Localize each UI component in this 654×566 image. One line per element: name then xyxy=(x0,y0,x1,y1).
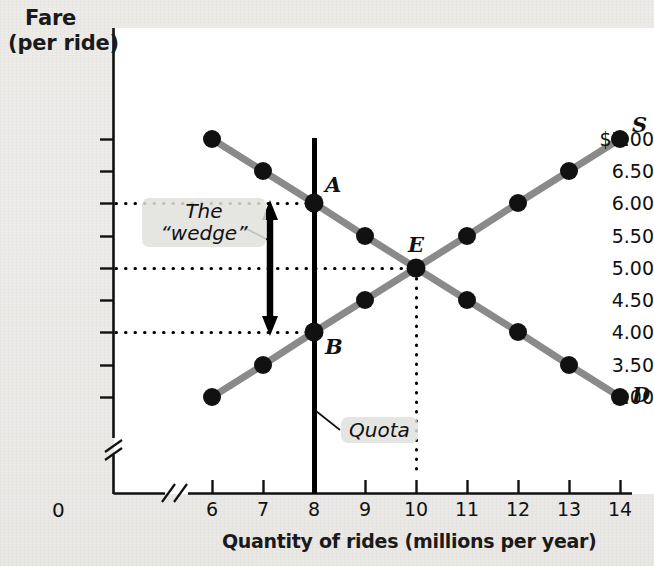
y-tick-label-5-50: 5.50 xyxy=(558,225,654,247)
point-label-e: E xyxy=(408,232,424,257)
y-axis-ticks xyxy=(100,140,113,398)
wedge-callout: The “wedge” xyxy=(142,198,266,247)
point-label-a: A xyxy=(325,172,341,197)
quota-callout: Quota xyxy=(341,417,418,443)
x-axis-ticks xyxy=(213,480,621,493)
wedge-callout-line1: The xyxy=(150,200,258,222)
y-tick-label-3-50: 3.50 xyxy=(558,354,654,376)
chart-svg xyxy=(0,0,654,566)
y-tick-label-4-00: 4.00 xyxy=(558,321,654,343)
x-tick-label-12: 12 xyxy=(498,498,538,520)
x-tick-label-8: 8 xyxy=(294,498,334,520)
y-axis xyxy=(105,28,122,494)
y-tick-label-6-50: 6.50 xyxy=(558,160,654,182)
x-tick-label-11: 11 xyxy=(447,498,487,520)
x-tick-label-7: 7 xyxy=(243,498,283,520)
x-tick-label-6: 6 xyxy=(192,498,232,520)
x-tick-label-9: 9 xyxy=(345,498,385,520)
y-tick-label-4-50: 4.50 xyxy=(558,289,654,311)
x-tick-label-10: 10 xyxy=(396,498,436,520)
x-tick-label-14: 14 xyxy=(600,498,640,520)
x-tick-label-13: 13 xyxy=(549,498,589,520)
x-axis-title: Quantity of rides (millions per year) xyxy=(222,530,597,552)
demand-curve-label: D xyxy=(632,382,650,407)
y-axis-title-line1: Fare xyxy=(25,6,76,30)
y-tick-label-5-00: 5.00 xyxy=(558,257,654,279)
y-tick-label-6-00: 6.00 xyxy=(558,192,654,214)
supply-curve-label: S xyxy=(632,112,647,137)
wedge-callout-line2: “wedge” xyxy=(150,222,258,244)
point-label-b: B xyxy=(325,334,343,359)
origin-label: 0 xyxy=(52,498,65,522)
quota-leader-line xyxy=(316,411,340,430)
figure-canvas: Fare (per ride) Quantity of rides (milli… xyxy=(0,0,654,566)
y-axis-title-line2: (per ride) xyxy=(8,31,119,55)
